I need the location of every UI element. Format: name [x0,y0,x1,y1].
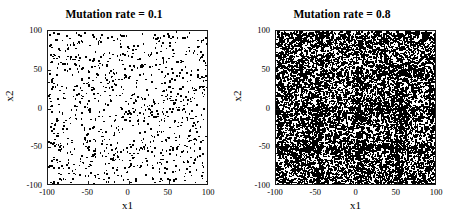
scatter-figure: Mutation rate = 0.1 x2 -100-50050100 -10… [0,0,456,220]
ytick-mark [48,70,51,71]
xtick-label: 50 [392,187,401,197]
ytick-label: 0 [266,103,270,113]
xtick-label: -100 [267,187,283,197]
ytick-label: 0 [38,103,42,113]
panel-title-right: Mutation rate = 0.8 [228,8,456,20]
xaxis-title-left: x1 [47,199,208,211]
xtick-mark [88,181,89,184]
scatter-points-left [48,31,207,184]
panel-title-left: Mutation rate = 0.1 [0,8,228,20]
plot-area-right [275,30,436,185]
xtick-label: 100 [430,187,443,197]
xtick-label: -50 [82,187,93,197]
ytick-label: 50 [34,64,43,74]
xtick-mark [129,181,130,184]
ytick-label: -50 [259,141,270,151]
xtick-mark [169,181,170,184]
xaxis-title-right: x1 [275,199,436,211]
plot-area-left [47,30,208,185]
ytick-label: -50 [31,141,42,151]
scatter-points-right [276,31,435,184]
ytick-labels-right: -100-50050100 [228,30,272,185]
xtick-mark [397,181,398,184]
panel-mutation-rate-low: Mutation rate = 0.1 x2 -100-50050100 -10… [0,0,228,220]
panel-mutation-rate-high: Mutation rate = 0.8 x2 -100-50050100 -10… [228,0,456,220]
xtick-label: -50 [310,187,321,197]
xtick-mark [316,181,317,184]
xtick-label: 0 [353,187,357,197]
ytick-mark [276,109,279,110]
xtick-label: 100 [202,187,215,197]
ytick-label: 50 [262,64,271,74]
ytick-label: 100 [257,25,270,35]
ytick-mark [276,70,279,71]
ytick-label: 100 [29,25,42,35]
ytick-mark [48,147,51,148]
xtick-label: 50 [164,187,173,197]
xtick-mark [357,181,358,184]
xtick-label: 0 [125,187,129,197]
ytick-mark [48,109,51,110]
ytick-mark [276,147,279,148]
ytick-labels-left: -100-50050100 [0,30,44,185]
xtick-label: -100 [39,187,55,197]
